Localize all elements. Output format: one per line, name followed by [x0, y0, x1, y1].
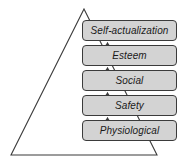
level-box-esteem[interactable]: Esteem: [82, 45, 177, 66]
level-label-safety: Safety: [115, 101, 144, 111]
maslow-hierarchy-diagram: Self-actualization Esteem Social Safety: [0, 0, 186, 168]
level-box-social[interactable]: Social: [82, 70, 177, 91]
level-label-esteem: Esteem: [112, 51, 147, 61]
level-box-safety[interactable]: Safety: [82, 95, 177, 116]
level-box-self-actualization[interactable]: Self-actualization: [82, 20, 177, 41]
level-label-social: Social: [116, 76, 144, 86]
level-box-physiological[interactable]: Physiological: [82, 120, 177, 141]
levels-stack: Self-actualization Esteem Social Safety: [0, 0, 186, 168]
level-label-physiological: Physiological: [100, 126, 160, 136]
level-label-self-actualization: Self-actualization: [91, 26, 169, 36]
